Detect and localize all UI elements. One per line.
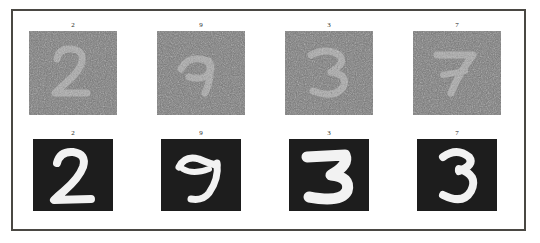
- digit-image-noisy-3: [285, 31, 373, 115]
- cell-label: 2: [25, 129, 121, 138]
- grid-cell: 9: [153, 21, 249, 115]
- digit-image-clean-3: [289, 139, 369, 211]
- cell-label: 9: [153, 21, 249, 30]
- grid-cell: 2: [25, 21, 121, 115]
- cell-label: 7: [409, 129, 505, 138]
- grid-cell: 2: [25, 129, 121, 211]
- cell-label: 3: [281, 129, 377, 138]
- digit-image-clean-2: [33, 139, 113, 211]
- grid-cell: 3: [281, 21, 377, 115]
- grid-cell: 3: [281, 129, 377, 211]
- grid-cell: 7: [409, 21, 505, 115]
- image-grid: 2: [13, 11, 524, 229]
- cell-label: 2: [25, 21, 121, 30]
- digit-image-noisy-9: [157, 31, 245, 115]
- figure-frame: 2: [11, 9, 526, 231]
- digit-image-noisy-7: [413, 31, 501, 115]
- grid-cell: 9: [153, 129, 249, 211]
- digit-image-clean-7: [417, 139, 497, 211]
- digit-image-noisy-2: [29, 31, 117, 115]
- grid-cell: 7: [409, 129, 505, 211]
- digit-image-clean-9: [161, 139, 241, 211]
- cell-label: 7: [409, 21, 505, 30]
- cell-label: 3: [281, 21, 377, 30]
- cell-label: 9: [153, 129, 249, 138]
